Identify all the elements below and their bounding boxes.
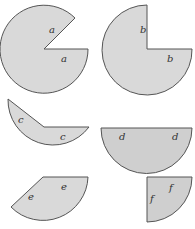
sector-figure: a a b b c c d d e e f f bbox=[0, 0, 195, 229]
label-e-right: e bbox=[61, 181, 67, 192]
label-d-left: d bbox=[119, 131, 125, 142]
shape-d: d d bbox=[101, 128, 192, 174]
shape-b-body bbox=[102, 5, 192, 95]
label-a-lower: a bbox=[61, 53, 67, 64]
label-b-lower: b bbox=[167, 53, 173, 64]
shape-a: a a bbox=[0, 5, 88, 93]
label-c-upper: c bbox=[18, 114, 24, 125]
shape-c: c c bbox=[8, 99, 89, 145]
shape-b: b b bbox=[102, 5, 192, 95]
shape-f: f f bbox=[147, 177, 192, 222]
shape-e-body bbox=[11, 177, 88, 220]
label-d-right: d bbox=[172, 131, 178, 142]
shape-e: e e bbox=[11, 177, 88, 220]
shape-a-body bbox=[0, 5, 88, 93]
label-c-lower: c bbox=[60, 131, 66, 142]
label-a-upper: a bbox=[49, 24, 55, 35]
label-b-upper: b bbox=[140, 24, 146, 35]
label-e-left: e bbox=[28, 191, 34, 202]
